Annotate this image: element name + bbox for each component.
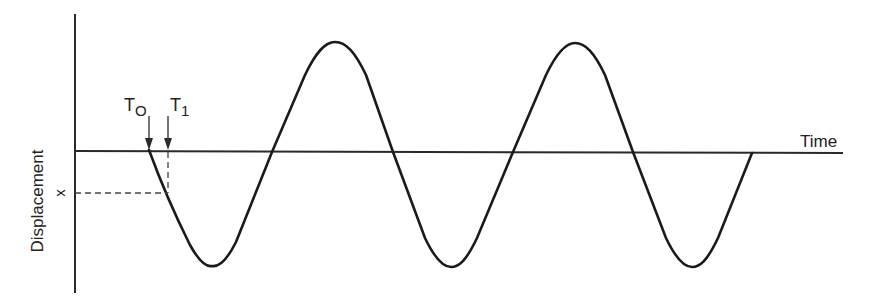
time-axis	[75, 151, 843, 153]
displacement-x-label: x	[51, 189, 68, 197]
sine-waveform	[149, 42, 752, 267]
time-axis-label: Time	[800, 132, 837, 151]
displacement-time-diagram: TO T1 Time Displacement x	[0, 0, 871, 304]
t0-label: TO	[124, 95, 147, 119]
t0-arrow-icon	[145, 116, 153, 150]
y-axis-label: Displacement	[28, 149, 47, 252]
t1-label: T1	[170, 95, 189, 119]
t1-arrow-icon	[164, 116, 172, 150]
